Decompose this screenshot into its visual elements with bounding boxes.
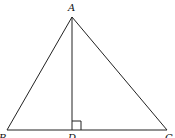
label-c: C (165, 132, 173, 138)
label-a: A (67, 2, 75, 13)
segment-ac (72, 17, 167, 130)
right-angle-marker (72, 121, 81, 130)
segment-ab (7, 17, 72, 130)
triangle-diagram: A B D C (0, 0, 175, 138)
label-d: D (67, 132, 76, 138)
label-b: B (0, 132, 6, 138)
